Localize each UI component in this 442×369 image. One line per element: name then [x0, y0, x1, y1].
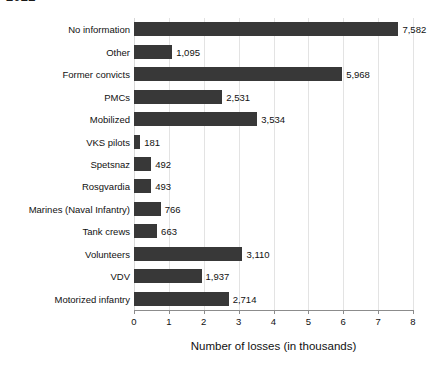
bar-value-label: 181 — [144, 136, 160, 147]
x-tick-label: 8 — [410, 316, 415, 327]
x-tick-mark — [204, 311, 205, 314]
bar-row[interactable]: Volunteers3,110 — [134, 243, 413, 265]
bar-category-label: PMCs — [104, 91, 130, 102]
x-tick-label: 4 — [271, 316, 276, 327]
bar-value-label: 663 — [161, 226, 177, 237]
x-tick-mark — [378, 311, 379, 314]
x-tick-mark — [413, 311, 414, 314]
bar-category-label: Mobilized — [90, 114, 130, 125]
x-tick-label: 5 — [306, 316, 311, 327]
bar-category-label: No information — [68, 24, 130, 35]
bar[interactable] — [134, 247, 242, 261]
gridline — [413, 18, 414, 310]
bar-value-label: 492 — [155, 158, 171, 169]
bar[interactable] — [134, 22, 398, 36]
bar-category-label: VKS pilots — [86, 136, 130, 147]
x-tick-label: 3 — [236, 316, 241, 327]
bar[interactable] — [134, 202, 161, 216]
x-tick-mark — [274, 311, 275, 314]
bar-row[interactable]: Rosgvardia493 — [134, 175, 413, 197]
x-tick-label: 2 — [201, 316, 206, 327]
x-tick-mark — [239, 311, 240, 314]
bar-row[interactable]: Former convicts5,968 — [134, 63, 413, 85]
bar-value-label: 7,582 — [402, 24, 426, 35]
bar-row[interactable]: VKS pilots181 — [134, 130, 413, 152]
bar-row[interactable]: PMCs2,531 — [134, 85, 413, 107]
bar-value-label: 3,110 — [246, 248, 269, 259]
bar-category-label: Marines (Naval Infantry) — [29, 203, 130, 214]
bar-value-label: 1,937 — [206, 271, 230, 282]
plot-area: No information7,582Other1,095Former conv… — [134, 18, 413, 310]
bar-row[interactable]: VDV1,937 — [134, 265, 413, 287]
x-tick-mark — [343, 311, 344, 314]
bar-row[interactable]: Motorized infantry2,714 — [134, 288, 413, 310]
bar-row[interactable]: No information7,582 — [134, 18, 413, 40]
bar[interactable] — [134, 157, 151, 171]
bar-category-label: Spetsnaz — [90, 158, 130, 169]
bar-chart: 2022 No information7,582Other1,095Former… — [0, 0, 442, 369]
bar[interactable] — [134, 269, 202, 283]
x-axis-title: Number of losses (in thousands) — [134, 340, 413, 352]
bar[interactable] — [134, 224, 157, 238]
bar-category-label: Volunteers — [85, 248, 130, 259]
bar-series: No information7,582Other1,095Former conv… — [134, 18, 413, 310]
bar-category-label: Rosgvardia — [82, 181, 130, 192]
bar-value-label: 2,714 — [233, 293, 257, 304]
bar-category-label: Other — [106, 46, 130, 57]
bar-row[interactable]: Spetsnaz492 — [134, 153, 413, 175]
x-tick-label: 6 — [341, 316, 346, 327]
bar[interactable] — [134, 135, 140, 149]
bar-value-label: 5,968 — [346, 69, 370, 80]
x-tick-label: 7 — [375, 316, 380, 327]
bar-value-label: 1,095 — [176, 46, 200, 57]
bar-row[interactable]: Other1,095 — [134, 40, 413, 62]
bar-value-label: 493 — [155, 181, 171, 192]
bar[interactable] — [134, 90, 222, 104]
bar[interactable] — [134, 45, 172, 59]
bar-value-label: 3,534 — [261, 114, 285, 125]
bar-category-label: VDV — [110, 271, 130, 282]
chart-title: 2022 — [6, 0, 36, 4]
bar-value-label: 766 — [165, 203, 181, 214]
bar[interactable] — [134, 67, 342, 81]
bar-category-label: Tank crews — [82, 226, 130, 237]
x-tick-label: 0 — [131, 316, 136, 327]
bar-value-label: 2,531 — [226, 91, 250, 102]
x-tick-mark — [169, 311, 170, 314]
bar-row[interactable]: Mobilized3,534 — [134, 108, 413, 130]
x-tick-mark — [308, 311, 309, 314]
bar[interactable] — [134, 179, 151, 193]
bar-row[interactable]: Marines (Naval Infantry)766 — [134, 198, 413, 220]
x-tick-mark — [134, 311, 135, 314]
bar[interactable] — [134, 292, 229, 306]
x-axis-ticks: 012345678 — [134, 311, 413, 329]
bar-category-label: Former convicts — [62, 69, 130, 80]
bar[interactable] — [134, 112, 257, 126]
bar-category-label: Motorized infantry — [54, 293, 130, 304]
bar-row[interactable]: Tank crews663 — [134, 220, 413, 242]
x-tick-label: 1 — [166, 316, 171, 327]
